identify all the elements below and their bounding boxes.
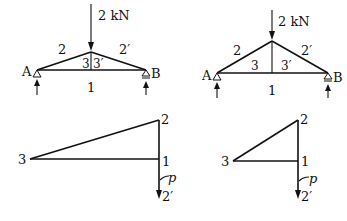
truss-diagram-canvas: 2 kN A B 2 2′ 3 3′ 1 2 kN <box>0 0 347 221</box>
point-label-3: 3 <box>18 152 26 167</box>
member-label-3prime: 3′ <box>281 59 292 73</box>
member-label-3prime: 3′ <box>93 57 104 71</box>
support-b-icon <box>324 73 332 98</box>
load-label: 2 kN <box>278 14 310 29</box>
member-label-3: 3 <box>82 57 90 71</box>
member-label-1: 1 <box>268 83 276 98</box>
support-a-label: A <box>21 64 32 79</box>
load-arrow-icon <box>269 10 275 40</box>
support-b-icon <box>142 70 150 95</box>
member-label-2: 2 <box>58 42 66 57</box>
load-label: 2 kN <box>98 8 130 23</box>
force-polygon-left: 3 2 1 2′ p <box>18 112 177 204</box>
member-label-2prime: 2′ <box>301 43 312 58</box>
support-a-icon <box>33 70 41 95</box>
point-label-3: 3 <box>221 154 229 169</box>
member-label-2prime: 2′ <box>119 42 130 57</box>
truss-right: 2 kN A B 2 2′ 3 3′ 1 <box>201 10 343 98</box>
point-label-2: 2 <box>300 112 308 127</box>
polygon-edge-3-2 <box>233 120 298 161</box>
leader-label-p: p <box>309 171 318 186</box>
support-b-label: B <box>333 70 343 85</box>
polygon-edge-3-2 <box>30 120 159 159</box>
leader-label-p: p <box>168 170 177 185</box>
load-arrow-icon <box>88 4 94 51</box>
member-label-1: 1 <box>87 80 95 95</box>
member-2 <box>217 41 272 73</box>
leader-line <box>299 177 309 181</box>
truss-left: 2 kN A B 2 2′ 3 3′ 1 <box>21 4 161 95</box>
point-label-1: 1 <box>301 154 309 169</box>
support-a-label: A <box>201 68 212 83</box>
point-label-2prime: 2′ <box>301 189 312 204</box>
member-label-2: 2 <box>233 43 241 58</box>
member-label-3: 3 <box>251 59 259 73</box>
support-a-icon <box>213 73 221 98</box>
force-polygon-right: 3 2 1 2′ p <box>221 112 318 204</box>
point-label-2: 2 <box>161 112 169 127</box>
point-label-1: 1 <box>162 154 170 169</box>
support-b-label: B <box>151 66 161 81</box>
point-label-2prime: 2′ <box>162 189 173 204</box>
